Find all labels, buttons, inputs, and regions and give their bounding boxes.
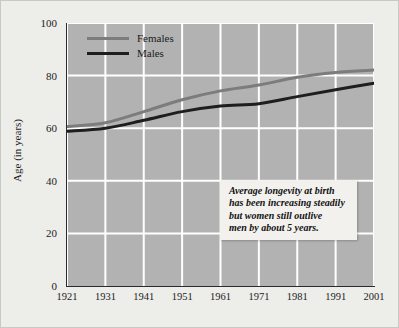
legend-item-females: Females xyxy=(87,31,174,46)
x-tick-label: 1981 xyxy=(287,292,308,303)
y-axis-line xyxy=(66,23,67,287)
legend-label-females: Females xyxy=(137,33,174,44)
legend-label-males: Males xyxy=(137,48,164,59)
plot-area xyxy=(67,23,374,286)
x-tick-label: 1921 xyxy=(57,292,78,303)
series-line-females xyxy=(67,70,374,127)
chart-legend: Females Males xyxy=(87,31,174,61)
y-tick-label: 20 xyxy=(1,228,63,239)
legend-swatch-males xyxy=(87,52,129,55)
x-tick-label: 1941 xyxy=(133,292,154,303)
y-tick-label: 0 xyxy=(1,281,63,292)
series-lines xyxy=(67,23,374,286)
y-axis-title: Age (in years) xyxy=(11,119,23,182)
longevity-line-chart: 020406080100 192119311941195119611971198… xyxy=(0,0,399,328)
annotation-line: has been increasing steadily xyxy=(229,197,349,209)
x-axis-line xyxy=(66,286,375,287)
x-tick-label: 1961 xyxy=(210,292,231,303)
annotation-line: but women still outlive xyxy=(229,210,349,222)
legend-swatch-females xyxy=(87,37,129,40)
x-tick-label: 1991 xyxy=(325,292,346,303)
x-tick-label: 1971 xyxy=(248,292,269,303)
annotation-callout: Average longevity at birthhas been incre… xyxy=(220,180,357,240)
annotation-line: Average longevity at birth xyxy=(229,185,349,197)
x-tick-label: 2001 xyxy=(364,292,385,303)
y-tick-label: 100 xyxy=(1,18,63,29)
x-tick-label: 1951 xyxy=(172,292,193,303)
x-tick-label: 1931 xyxy=(95,292,116,303)
annotation-line: men by about 5 years. xyxy=(229,222,349,234)
legend-item-males: Males xyxy=(87,46,174,61)
y-tick-label: 80 xyxy=(1,70,63,81)
x-axis-tick-labels: 192119311941195119611971198119912001 xyxy=(67,292,374,308)
